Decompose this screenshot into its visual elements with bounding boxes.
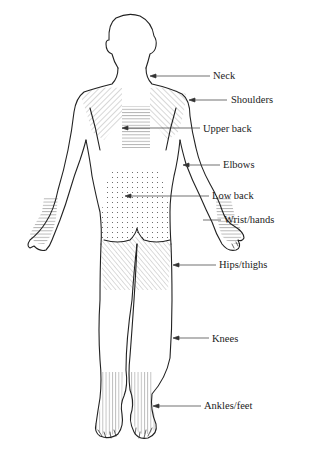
arrow-shoulders-icon	[189, 98, 195, 102]
label-low-back: Low back	[212, 190, 254, 202]
region-shoulder-right	[150, 88, 186, 140]
region-shoulder-left	[82, 88, 122, 141]
head-outline	[106, 14, 156, 68]
label-hips-thighs: Hips/thighs	[219, 259, 267, 271]
label-ankles-feet: Ankles/feet	[204, 400, 252, 412]
arrow-hips-thighs-icon	[173, 263, 179, 267]
label-wrist-hands: Wrist/hands	[224, 214, 274, 226]
arm-inner-left	[86, 140, 101, 244]
arm-inner-right	[170, 140, 180, 244]
body-diagram	[0, 0, 321, 463]
label-knees: Knees	[212, 333, 238, 345]
label-elbows: Elbows	[223, 159, 255, 171]
arrow-ankles-feet-icon	[153, 404, 159, 408]
label-shoulders: Shoulders	[231, 94, 273, 106]
region-ankle-left	[96, 372, 123, 435]
region-ankle-right	[130, 372, 156, 434]
label-neck: Neck	[213, 70, 235, 82]
label-upper-back: Upper back	[203, 123, 252, 135]
arrow-knees-icon	[173, 336, 179, 340]
arrow-neck-icon	[150, 74, 156, 78]
